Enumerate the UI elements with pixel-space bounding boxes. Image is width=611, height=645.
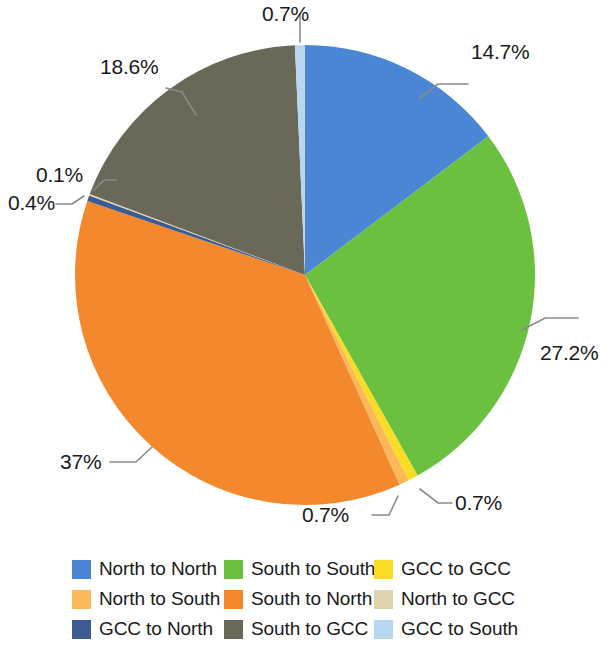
data-label-gcc-to-gcc: 0.7% xyxy=(455,491,502,515)
legend-item-south-to-gcc[interactable]: South to GCC xyxy=(224,618,374,640)
leader-line-gcc-to-gcc xyxy=(420,489,452,503)
data-label-north-to-gcc: 0.1% xyxy=(36,163,83,187)
legend-item-north-to-south[interactable]: North to South xyxy=(72,588,224,610)
legend-label-north-to-gcc: North to GCC xyxy=(401,588,515,610)
legend-swatch-gcc-to-gcc xyxy=(374,560,393,579)
data-label-north-to-north: 14.7% xyxy=(471,40,530,64)
legend-swatch-south-to-gcc xyxy=(224,620,243,639)
legend-label-north-to-north: North to North xyxy=(99,558,217,580)
pie-chart-plot-area: 0.7% 14.7% 27.2% 0.7% 0.7% 37% 0.4% 0.1%… xyxy=(0,0,611,545)
legend-item-north-to-gcc[interactable]: North to GCC xyxy=(374,588,524,610)
legend-label-gcc-to-gcc: GCC to GCC xyxy=(401,558,511,580)
data-label-south-to-north: 37% xyxy=(60,450,101,474)
leader-line-north-to-south xyxy=(372,496,398,515)
chart-legend: North to North South to South GCC to GCC… xyxy=(0,548,611,645)
data-label-north-to-south: 0.7% xyxy=(302,503,349,527)
legend-label-gcc-to-north: GCC to North xyxy=(99,618,213,640)
legend-item-south-to-south[interactable]: South to South xyxy=(224,558,374,580)
leader-line-south-to-north xyxy=(110,447,152,462)
legend-swatch-north-to-north xyxy=(72,560,91,579)
pie-slices xyxy=(75,45,535,505)
legend-swatch-north-to-gcc xyxy=(374,590,393,609)
legend-grid: North to North South to South GCC to GCC… xyxy=(72,554,524,644)
pie-chart-figure: 0.7% 14.7% 27.2% 0.7% 0.7% 37% 0.4% 0.1%… xyxy=(0,0,611,645)
legend-swatch-north-to-south xyxy=(72,590,91,609)
legend-label-north-to-south: North to South xyxy=(99,588,220,610)
legend-label-south-to-gcc: South to GCC xyxy=(251,618,368,640)
legend-swatch-gcc-to-south xyxy=(374,620,393,639)
legend-swatch-south-to-north xyxy=(224,590,243,609)
legend-swatch-gcc-to-north xyxy=(72,620,91,639)
data-label-south-to-gcc: 18.6% xyxy=(100,55,159,79)
data-label-gcc-to-south: 0.7% xyxy=(262,2,309,26)
data-label-south-to-south: 27.2% xyxy=(540,341,599,365)
legend-swatch-south-to-south xyxy=(224,560,243,579)
leader-line-gcc-to-north xyxy=(56,196,84,204)
legend-item-south-to-north[interactable]: South to North xyxy=(224,588,374,610)
legend-item-gcc-to-south[interactable]: GCC to South xyxy=(374,618,524,640)
data-label-gcc-to-north: 0.4% xyxy=(8,191,55,215)
legend-label-gcc-to-south: GCC to South xyxy=(401,618,518,640)
legend-item-north-to-north[interactable]: North to North xyxy=(72,558,224,580)
legend-label-south-to-north: South to North xyxy=(251,588,372,610)
legend-item-gcc-to-north[interactable]: GCC to North xyxy=(72,618,224,640)
legend-label-south-to-south: South to South xyxy=(251,558,375,580)
legend-item-gcc-to-gcc[interactable]: GCC to GCC xyxy=(374,558,524,580)
